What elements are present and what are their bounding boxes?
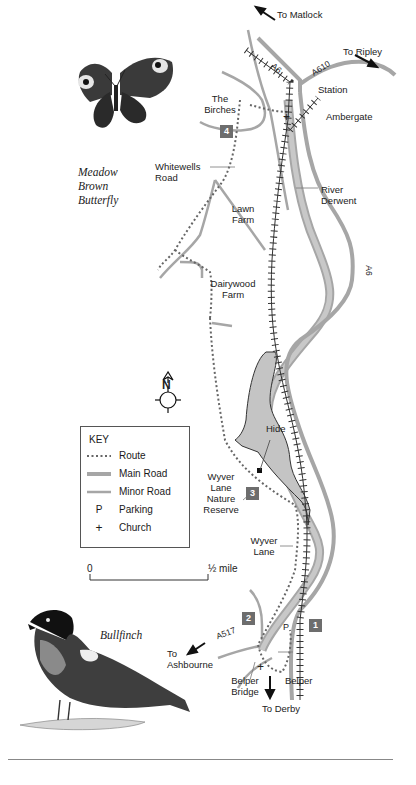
parking-marker: P	[283, 622, 289, 633]
key-item-parking: P Parking	[87, 503, 187, 517]
wyver-lane-nature-reserve-label: Wyver Lane Nature Reserve	[198, 471, 244, 515]
minor-road-line-icon	[87, 485, 111, 499]
to-matlock-label: To Matlock	[277, 9, 322, 20]
church-marker-ambergate: +	[283, 112, 290, 123]
compass-north-label: N	[162, 380, 171, 391]
church-marker-belper: +	[257, 662, 264, 673]
a6-east-label: A6	[363, 265, 374, 275]
butterfly-caption: Meadow Brown Butterfly	[78, 165, 118, 207]
whitewells-road-label: Whitewells Road	[155, 161, 207, 183]
parking-symbol-icon: P	[87, 503, 111, 517]
scale-bar	[90, 574, 208, 580]
key-item-church: + Church	[87, 521, 187, 535]
key-title: KEY	[89, 434, 109, 445]
ambergate-label: Ambergate	[326, 111, 372, 122]
to-ripley-label: To Ripley	[343, 46, 382, 57]
footer-divider	[8, 759, 393, 760]
hide-marker	[257, 468, 262, 473]
wyver-lane-label: Wyver Lane	[247, 535, 281, 557]
scale-start-label: 0	[87, 563, 93, 574]
river-derwent-label: River Derwent	[321, 184, 361, 206]
waypoint-badge-2: 2	[242, 612, 255, 625]
to-derby-label: To Derby	[262, 703, 300, 714]
key-item-main-road: Main Road	[87, 467, 187, 481]
dairywood-farm-label: Dairywood Farm	[208, 278, 258, 300]
waypoint-badge-4: 4	[220, 125, 233, 138]
bullfinch-caption: Bullfinch	[100, 628, 142, 642]
waypoint-badge-3: 3	[246, 487, 259, 500]
map-key: KEY Route Main Road Minor Road P Parking…	[80, 426, 190, 548]
key-item-route: Route	[87, 449, 187, 463]
waypoint-badge-1: 1	[309, 619, 322, 632]
the-birches-label: The Birches	[203, 93, 237, 115]
belper-label: Belper	[285, 675, 312, 686]
scale-end-label: ½ mile	[208, 563, 237, 574]
lawn-farm-label: Lawn Farm	[228, 203, 258, 225]
meadow-brown-butterfly-illustration	[78, 58, 173, 128]
hide-label: Hide	[266, 423, 286, 434]
station-label: Station	[318, 84, 348, 95]
route-line-icon	[87, 449, 111, 463]
main-road-line-icon	[87, 467, 111, 481]
belper-bridge-label: Belper Bridge	[226, 675, 264, 697]
church-symbol-icon: +	[87, 521, 111, 535]
key-item-minor-road: Minor Road	[87, 485, 187, 499]
to-ashbourne-label: To Ashbourne	[167, 648, 217, 670]
